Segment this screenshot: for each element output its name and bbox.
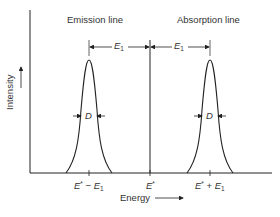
y-axis-label: Intensity: [4, 75, 15, 110]
tick-label-absorption: E* + E1: [195, 180, 225, 192]
e1-label-right: E1: [174, 40, 184, 52]
x-axis-label: Energy: [120, 192, 150, 203]
absorption-line-title: Absorption line: [177, 14, 240, 25]
tick-label-center: E*: [146, 180, 155, 191]
e1-label-left: E1: [114, 40, 124, 52]
d-label-emission: D: [85, 110, 92, 121]
diagram-canvas: [0, 0, 280, 217]
d-label-absorption: D: [206, 110, 213, 121]
emission-line-title: Emission line: [67, 14, 123, 25]
tick-label-emission: E* − E1: [74, 180, 104, 192]
